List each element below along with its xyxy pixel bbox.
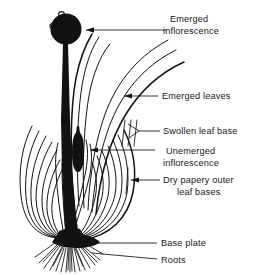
label-swollen-leaf-base: Swollen leaf base [163, 126, 238, 136]
leader-swollen-leaf-base [122, 120, 160, 146]
bulb-diagram-canvas: Emerged inflorescence Emerged leaves Swo… [0, 0, 266, 275]
label-dry-papery-leaf-bases-line2: leaf bases [177, 187, 221, 197]
label-emerged-inflorescence-line2: inflorescence [163, 26, 219, 36]
label-unemerged-inflorescence-line2: inflorescence [163, 158, 219, 168]
label-roots: Roots [161, 255, 186, 265]
leader-emerged-inflorescence [86, 27, 166, 33]
leader-lines [86, 27, 166, 259]
label-unemerged-inflorescence-line1: Unemerged [166, 146, 215, 156]
bulb-right-scales [76, 130, 135, 240]
label-emerged-leaves: Emerged leaves [162, 91, 231, 101]
bulb-anatomy-figure: Emerged inflorescence Emerged leaves Swo… [0, 0, 266, 275]
label-emerged-inflorescence-line1: Emerged [170, 14, 208, 24]
label-dry-papery-leaf-bases-line1: Dry papery outer [163, 175, 234, 185]
leader-unemerged-inflorescence [90, 147, 155, 152]
leader-dry-papery-leaf-bases [126, 168, 160, 194]
inner-bud [72, 126, 84, 172]
leader-roots [92, 253, 157, 259]
flower-head [50, 12, 82, 45]
label-base-plate: Base plate [161, 238, 206, 248]
